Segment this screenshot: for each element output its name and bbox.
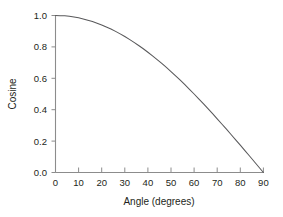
y-tick-label: 0.2: [34, 136, 47, 147]
x-tick-label: 30: [120, 177, 131, 188]
y-tick-label: 0.4: [34, 104, 47, 115]
x-tick-label: 10: [73, 177, 84, 188]
cosine-curve: [56, 16, 264, 173]
x-tick-label: 0: [53, 177, 58, 188]
chart-canvas: 0.0 0.2 0.4 0.6 0.8 1.0 0 10 20 30 40 50…: [0, 0, 283, 217]
x-tick-label: 90: [258, 177, 269, 188]
y-axis-title: Cosine: [7, 78, 18, 110]
x-tick-labels: 0 10 20 30 40 50 60 70 80 90: [53, 177, 269, 188]
y-tick-label: 1.0: [34, 10, 47, 21]
y-tick-labels: 0.0 0.2 0.4 0.6 0.8 1.0: [34, 10, 47, 178]
y-tick-label: 0.0: [34, 167, 47, 178]
x-tick-label: 40: [143, 177, 154, 188]
y-axis-ticks: [52, 16, 56, 173]
y-tick-label: 0.6: [34, 73, 47, 84]
x-tick-label: 80: [235, 177, 246, 188]
x-tick-label: 50: [166, 177, 177, 188]
x-tick-label: 70: [212, 177, 223, 188]
x-axis-ticks: [56, 168, 264, 173]
x-axis-title: Angle (degrees): [123, 196, 194, 207]
x-tick-label: 20: [96, 177, 107, 188]
y-tick-label: 0.8: [34, 41, 47, 52]
x-tick-label: 60: [189, 177, 200, 188]
cosine-chart-figure: 0.0 0.2 0.4 0.6 0.8 1.0 0 10 20 30 40 50…: [0, 0, 283, 217]
